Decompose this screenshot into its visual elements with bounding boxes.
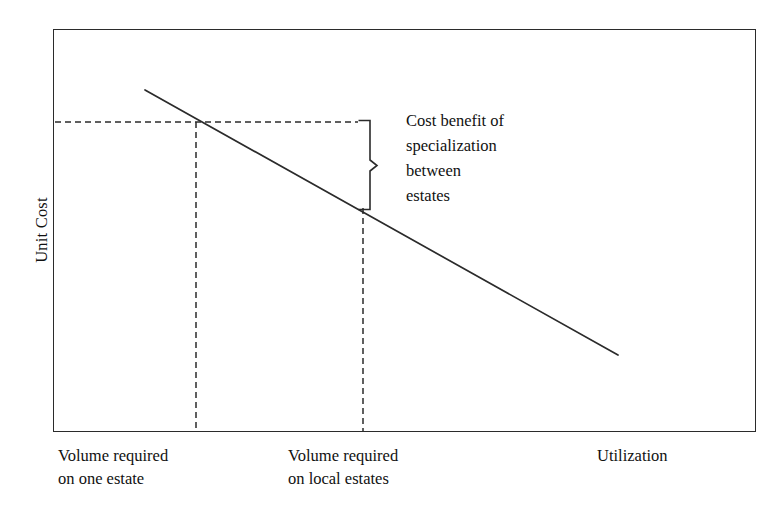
x-tick-label-local-estates-line1: Volume required <box>288 444 398 467</box>
plot-frame <box>53 29 756 432</box>
cost-benefit-annotation-line3: between <box>406 158 504 183</box>
cost-benefit-annotation: Cost benefit of specialization between e… <box>406 108 504 208</box>
x-tick-label-one-estate-line2: on one estate <box>58 467 168 490</box>
chart-canvas: Unit Cost Volume required on one estate … <box>0 0 778 511</box>
cost-benefit-annotation-line4: estates <box>406 183 504 208</box>
x-axis-title: Utilization <box>597 444 668 467</box>
cost-benefit-annotation-line2: specialization <box>406 133 504 158</box>
x-tick-label-one-estate: Volume required on one estate <box>58 444 168 490</box>
x-axis-title-text: Utilization <box>597 444 668 467</box>
cost-benefit-annotation-line1: Cost benefit of <box>406 108 504 133</box>
y-axis-title: Unit Cost <box>32 130 52 330</box>
x-tick-label-one-estate-line1: Volume required <box>58 444 168 467</box>
x-tick-label-local-estates-line2: on local estates <box>288 467 398 490</box>
x-tick-label-local-estates: Volume required on local estates <box>288 444 398 490</box>
